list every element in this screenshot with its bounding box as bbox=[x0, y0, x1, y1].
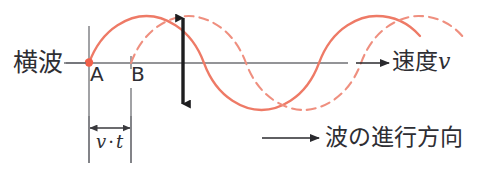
velocity-label-text: 速度 bbox=[392, 48, 438, 74]
propagation-direction-label: 波の進行方向 bbox=[325, 126, 463, 149]
distance-separator: · bbox=[106, 131, 116, 152]
velocity-label: 速度v bbox=[392, 50, 450, 73]
point-b-label: B bbox=[131, 64, 145, 84]
distance-t-symbol: t bbox=[116, 131, 123, 152]
distance-vt-label: v·t bbox=[96, 133, 123, 151]
velocity-label-symbol: v bbox=[438, 49, 450, 74]
point-a-label: A bbox=[90, 64, 104, 84]
distance-v-symbol: v bbox=[96, 131, 106, 152]
wave-type-label: 横波 bbox=[13, 50, 63, 75]
transverse-wave-diagram bbox=[0, 0, 481, 182]
